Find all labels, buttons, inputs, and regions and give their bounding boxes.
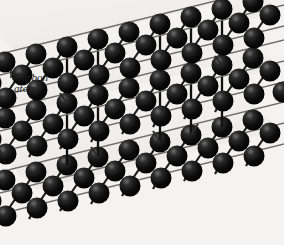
carbon-atom-label-line2: atom xyxy=(14,83,48,94)
carbon-lattice-diagram xyxy=(0,0,284,245)
clipped-left-label: d xyxy=(0,150,1,161)
carbon-atom-label: Carbon atom xyxy=(14,72,48,94)
figure-canvas: Carbon atom d xyxy=(0,0,284,245)
